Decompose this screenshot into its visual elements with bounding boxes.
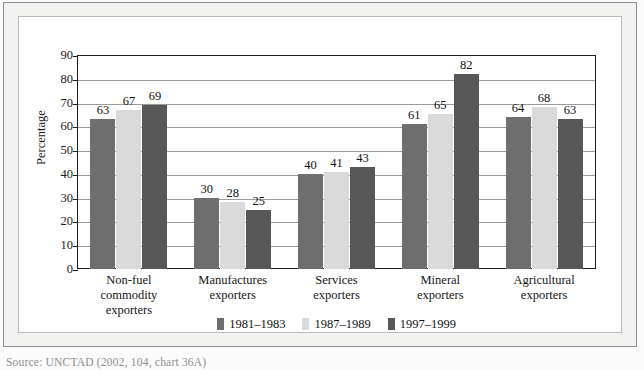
- legend-item: 1987–1989: [302, 318, 370, 331]
- bar-value-label: 43: [346, 152, 380, 165]
- figure-outer-frame: 0102030405060708090 Percentage 633040616…: [3, 2, 637, 347]
- bar: [428, 114, 453, 269]
- y-axis-tick: [73, 270, 78, 271]
- y-axis-tick-label: 20: [43, 215, 73, 228]
- bar: [246, 210, 271, 269]
- x-axis-category-labels: Non-fuel commodityexportersManufacturese…: [77, 273, 596, 307]
- category-label-line: exporters: [285, 288, 389, 303]
- legend-label: 1981–1983: [229, 318, 285, 331]
- bar-value-label: 63: [553, 104, 587, 117]
- bar: [454, 74, 479, 269]
- category-label-line: exporters: [388, 288, 492, 303]
- x-axis-category-label: Agriculturalexporters: [492, 273, 596, 303]
- legend-label: 1987–1989: [314, 318, 370, 331]
- y-axis-title: Percentage: [34, 93, 49, 183]
- bar: [194, 198, 219, 269]
- category-label-line: Non-fuel commodity: [77, 273, 181, 303]
- category-label-line: Services: [285, 273, 389, 288]
- bar: [324, 172, 349, 269]
- bar-value-label: 25: [242, 195, 276, 208]
- bar: [532, 107, 557, 269]
- bars-layer: 633040616467284165686925438263: [77, 55, 596, 269]
- figure-page: 0102030405060708090 Percentage 633040616…: [0, 0, 644, 370]
- legend-item: 1981–1983: [217, 318, 285, 331]
- legend-item: 1997–1999: [388, 318, 456, 331]
- chart-legend: 1981–19831987–19891997–1999: [77, 315, 596, 333]
- bar: [220, 202, 245, 269]
- bar: [116, 110, 141, 269]
- y-axis-tick-label: 0: [43, 263, 73, 276]
- x-axis-category-label: Mineralexporters: [388, 273, 492, 303]
- bar-value-label: 69: [138, 90, 172, 103]
- category-label-line: Mineral: [388, 273, 492, 288]
- x-axis-category-label: Manufacturesexporters: [181, 273, 285, 303]
- y-axis-tick-label: 90: [43, 49, 73, 62]
- figure-inner-frame: 0102030405060708090 Percentage 633040616…: [18, 16, 622, 333]
- legend-swatch-icon: [388, 318, 395, 330]
- bar: [142, 105, 167, 269]
- x-axis-category-label: Non-fuel commodityexporters: [77, 273, 181, 317]
- category-label-line: Agricultural: [492, 273, 596, 288]
- bar: [402, 124, 427, 269]
- legend-label: 1997–1999: [400, 318, 456, 331]
- category-label-line: exporters: [181, 288, 285, 303]
- bar: [90, 119, 115, 269]
- bar: [298, 174, 323, 269]
- bar: [558, 119, 583, 269]
- y-axis-tick-label: 80: [43, 73, 73, 86]
- bar: [350, 167, 375, 269]
- category-label-line: exporters: [492, 288, 596, 303]
- legend-swatch-icon: [217, 318, 224, 330]
- x-axis-category-label: Servicesexporters: [285, 273, 389, 303]
- legend-swatch-icon: [302, 318, 309, 330]
- bar-chart: 0102030405060708090 Percentage 633040616…: [19, 17, 625, 336]
- y-axis-tick-label: 30: [43, 192, 73, 205]
- category-label-line: Manufactures: [181, 273, 285, 288]
- source-caption: Source: UNCTAD (2002, 104, chart 36A): [6, 356, 206, 368]
- y-axis-tick-label: 10: [43, 239, 73, 252]
- bar: [506, 117, 531, 269]
- bar-value-label: 65: [423, 99, 457, 112]
- bar-value-label: 82: [449, 59, 483, 72]
- bar-value-label: 68: [527, 92, 561, 105]
